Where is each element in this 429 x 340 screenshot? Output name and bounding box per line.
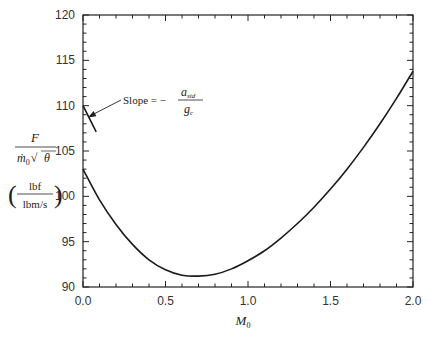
left-paren: (: [8, 180, 17, 209]
ticks: [83, 15, 413, 287]
y-axis-label: F ṁ0√ θ ( lbf lbm/s ): [8, 130, 63, 210]
y-tick-label: 105: [55, 144, 75, 158]
slope-annotation-label: Slope = − astd gc: [123, 85, 203, 117]
units-denominator: lbm/s: [23, 198, 47, 210]
y-label-theta: θ: [44, 151, 50, 165]
tick-labels: 0.00.51.01.52.09095100105110115120: [55, 8, 422, 308]
x-axis-label: M0: [235, 313, 251, 330]
annotation: [83, 100, 121, 132]
x-tick-label: 2.0: [405, 294, 422, 308]
y-tick-label: 115: [56, 53, 75, 67]
annotation-arrow-line: [93, 100, 121, 114]
units-numerator: lbf: [29, 180, 42, 192]
x-tick-label: 0.0: [75, 294, 92, 308]
y-tick-label: 90: [62, 280, 76, 294]
y-label-numerator: F: [30, 130, 40, 145]
plot-frame: [83, 15, 413, 287]
specific-thrust-chart: 0.00.51.01.52.09095100105110115120 M0 F …: [0, 0, 429, 340]
axes: [83, 15, 413, 287]
x-tick-label: 0.5: [157, 294, 174, 308]
x-tick-label: 1.0: [240, 294, 257, 308]
x-tick-label: 1.5: [322, 294, 339, 308]
slope-denominator: gc: [184, 102, 194, 117]
y-tick-label: 120: [55, 8, 75, 22]
y-tick-label: 95: [62, 235, 76, 249]
slope-numerator: astd: [181, 85, 196, 100]
y-label-denominator: ṁ0√: [17, 151, 38, 167]
y-tick-label: 110: [56, 99, 75, 113]
slope-tangent-line: [83, 106, 96, 132]
right-paren: ): [54, 180, 63, 209]
slope-text: Slope = −: [123, 94, 166, 106]
annotation-arrowhead: [88, 111, 96, 117]
